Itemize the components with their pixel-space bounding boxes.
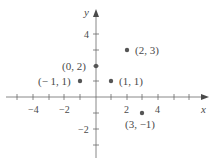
point-label-0-2: (0, 2) bbox=[62, 60, 86, 73]
point-1-1 bbox=[109, 79, 113, 83]
point-label-neg1-1: (− 1, 1) bbox=[38, 75, 71, 88]
point-label-1-1: (1, 1) bbox=[119, 75, 143, 88]
point-label-2-3: (2, 3) bbox=[135, 44, 159, 57]
y-tick-label-neg2: −2 bbox=[78, 124, 89, 135]
point-neg1-1 bbox=[78, 79, 82, 83]
y-tick-label-4: 4 bbox=[84, 29, 89, 40]
y-axis-label: y bbox=[83, 6, 89, 18]
point-label-3-neg1: (3, −1) bbox=[125, 118, 155, 131]
coordinate-plane: −4 −2 2 4 4 −2 x y (2, 3) (0, 2) (− 1, 1… bbox=[0, 0, 212, 165]
point-3-neg1 bbox=[140, 111, 144, 115]
point-0-2 bbox=[94, 64, 98, 68]
x-axis-label: x bbox=[200, 103, 206, 115]
x-axis-arrow-icon bbox=[201, 94, 209, 100]
x-tick-label-4: 4 bbox=[155, 104, 160, 115]
y-axis-arrow-icon bbox=[93, 9, 99, 17]
point-2-3 bbox=[125, 48, 129, 52]
x-tick-label-neg4: −4 bbox=[28, 104, 39, 115]
x-tick-label-neg2: −2 bbox=[59, 104, 70, 115]
x-tick-label-2: 2 bbox=[124, 104, 129, 115]
